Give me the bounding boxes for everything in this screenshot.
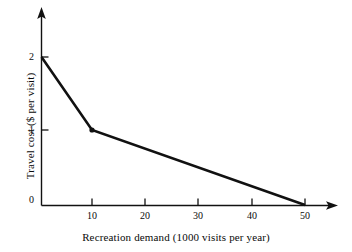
x-tick-label-30: 30 (186, 210, 210, 221)
x-tick-label-50: 50 (293, 210, 317, 221)
y-axis-title: Travel cost ($ per visit) (24, 36, 36, 216)
x-tick-label-10: 10 (80, 210, 104, 221)
x-tick-label-20: 20 (133, 210, 157, 221)
demand-curve-line (42, 57, 306, 205)
data-point-marker (89, 127, 94, 132)
x-tick-label-40: 40 (240, 210, 264, 221)
x-axis-title: Recreation demand (1000 visits per year) (0, 231, 352, 243)
chart-figure: 2 1 0 10 20 30 40 50 Recreation demand (… (0, 0, 352, 252)
